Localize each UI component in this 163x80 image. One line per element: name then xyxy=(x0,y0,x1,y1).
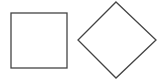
diagram-canvas xyxy=(0,0,163,80)
square-shape xyxy=(11,13,67,68)
diamond-shape xyxy=(78,2,156,78)
